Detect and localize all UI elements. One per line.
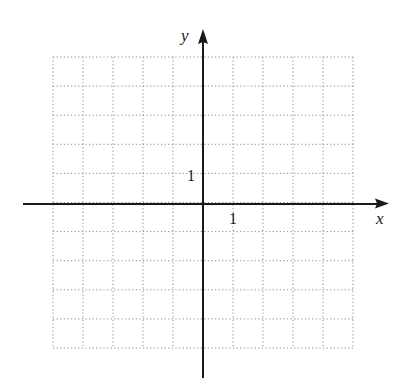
coordinate-plane: y x 1 1 — [0, 0, 396, 388]
x-axis-label: x — [375, 209, 384, 228]
x-axis-arrow-icon — [375, 199, 389, 209]
x-unit-label: 1 — [229, 210, 237, 227]
y-unit-label: 1 — [187, 167, 195, 184]
y-axis-arrow-icon — [198, 29, 208, 44]
y-axis-label: y — [179, 26, 189, 45]
